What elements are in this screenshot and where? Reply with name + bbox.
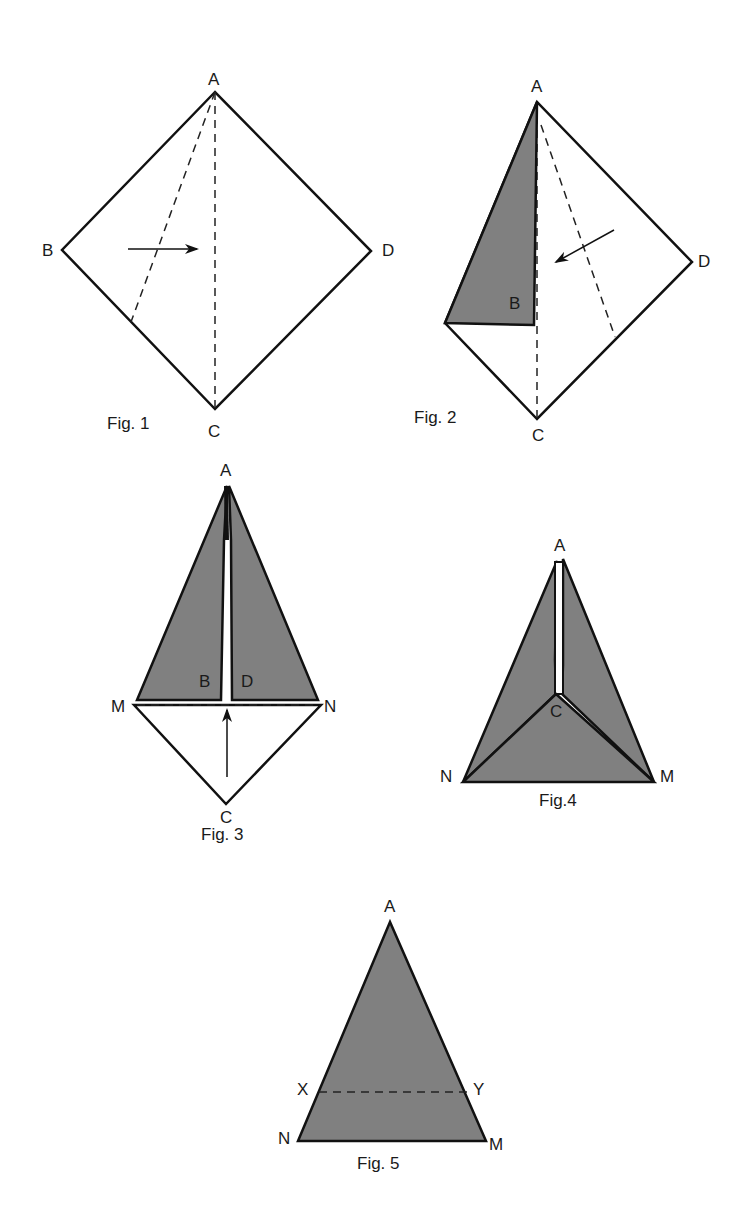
caption-fig4: Fig.4 bbox=[539, 791, 577, 810]
figure-2: A B C D Fig. 2 bbox=[414, 77, 710, 445]
caption-fig5: Fig. 5 bbox=[357, 1154, 400, 1173]
triangle-anm bbox=[298, 922, 486, 1141]
label-a: A bbox=[384, 897, 396, 916]
label-b: B bbox=[199, 672, 210, 691]
label-x: X bbox=[297, 1080, 308, 1099]
label-m: M bbox=[111, 697, 125, 716]
label-a: A bbox=[220, 461, 232, 480]
label-d: D bbox=[241, 672, 253, 691]
center-slit bbox=[555, 562, 563, 694]
label-a: A bbox=[554, 536, 566, 555]
figure-5: A X Y N M Fig. 5 bbox=[278, 897, 503, 1173]
flap-b bbox=[137, 486, 227, 700]
label-m: M bbox=[489, 1135, 503, 1154]
label-b: B bbox=[509, 294, 520, 313]
label-d: D bbox=[698, 252, 710, 271]
flap-d bbox=[229, 486, 318, 700]
figure-1: A B C D Fig. 1 bbox=[42, 70, 394, 441]
label-y: Y bbox=[473, 1080, 484, 1099]
label-c: C bbox=[550, 702, 562, 721]
origami-fold-diagram: A B C D Fig. 1 A B C D Fig. 2 A B D M N … bbox=[0, 0, 744, 1221]
label-m: M bbox=[660, 767, 674, 786]
label-n: N bbox=[278, 1129, 290, 1148]
label-a: A bbox=[531, 77, 543, 96]
figure-3: A B D M N C Fig. 3 bbox=[111, 461, 336, 844]
label-c: C bbox=[532, 426, 544, 445]
label-c: C bbox=[208, 422, 220, 441]
center-crease bbox=[226, 486, 227, 540]
folded-flap-b bbox=[445, 102, 537, 325]
label-a: A bbox=[208, 70, 220, 89]
label-n: N bbox=[324, 697, 336, 716]
figure-4: A C N M Fig.4 bbox=[440, 536, 674, 810]
caption-fig2: Fig. 2 bbox=[414, 408, 457, 427]
caption-fig1: Fig. 1 bbox=[107, 414, 150, 433]
label-n: N bbox=[440, 767, 452, 786]
caption-fig3: Fig. 3 bbox=[201, 825, 244, 844]
square-abcd bbox=[62, 92, 371, 409]
label-b: B bbox=[42, 241, 53, 260]
label-d: D bbox=[382, 241, 394, 260]
